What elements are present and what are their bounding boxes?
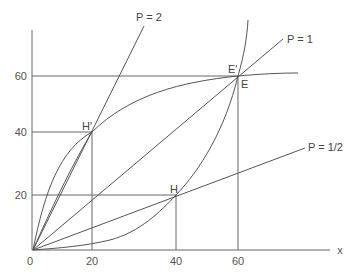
offer-curve-concave <box>33 73 298 250</box>
x-axis-label: x <box>337 244 343 256</box>
label-e: E <box>241 78 248 90</box>
x-tick-60: 60 <box>232 255 244 267</box>
label-e-prime: E' <box>228 63 237 75</box>
label-p2: P = 2 <box>136 11 162 23</box>
label-h: H <box>170 183 178 195</box>
price-line-p1 <box>33 39 283 250</box>
y-tick-20: 20 <box>15 189 27 201</box>
x-tick-20: 20 <box>86 255 98 267</box>
x-tick-0: 0 <box>27 255 33 267</box>
y-tick-40: 40 <box>15 126 27 138</box>
x-tick-40: 40 <box>170 255 182 267</box>
offer-curve-diagram: 60 40 20 0 20 40 60 x P = 2 P = 1 P = 1/… <box>0 0 355 278</box>
y-tick-60: 60 <box>15 70 27 82</box>
offer-curve-convex <box>33 20 248 250</box>
label-p1: P = 1 <box>287 33 313 45</box>
label-p-half: P = 1/2 <box>308 141 343 153</box>
label-h-prime: H' <box>82 120 92 132</box>
